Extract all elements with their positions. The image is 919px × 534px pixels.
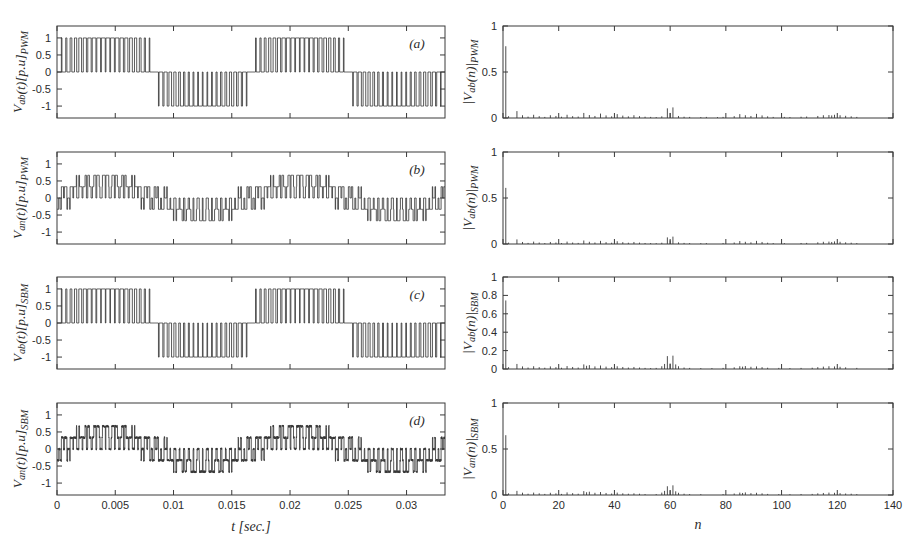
panel-d-xticklabel: 0.02: [279, 499, 300, 511]
spectrum-d-spectrum-frame: [503, 403, 893, 495]
spectrum-d-spectrum-xticklabel: 140: [884, 499, 902, 511]
panel-d-xticklabel: 0.03: [396, 499, 417, 511]
spectrum-d-spectrum-xticklabel: 80: [720, 499, 732, 511]
ylabel-b: Van(t)[p.u]PWM: [10, 156, 30, 240]
spectrum-d-spectrum-yticklabel: 0.5: [482, 443, 497, 455]
spectrum-c-spectrum-axes: 00.20.40.60.81: [482, 271, 893, 375]
spectrum-a-spectrum-yticklabel: 0: [491, 112, 497, 124]
spectrum-c-spectrum-frame: [503, 277, 893, 369]
spectrum-stems-d-spectrum: [506, 435, 857, 495]
spectrum-a-spectrum-axes: 00.51: [482, 20, 893, 124]
waveform-trace-c: [57, 289, 445, 357]
spectrum-b-spectrum-yticklabel: 0: [491, 238, 497, 250]
panel-b-yticklabel: -1: [41, 226, 51, 238]
waveform-trace-a: [57, 38, 445, 106]
panel-d-yticklabel: 0.5: [36, 426, 51, 438]
spectrum-d-spectrum-xticklabel: 60: [664, 499, 676, 511]
spectrum-b-spectrum-axes: 00.51: [482, 146, 893, 250]
panel-d-xticklabel: 0.01: [163, 499, 184, 511]
panel-c-yticklabel: 0: [45, 317, 51, 329]
xlabel-harmonic-order: n: [695, 517, 702, 532]
panel-d-xticklabel: 0.025: [335, 499, 363, 511]
ylabel-d: Van(t)[p.u]SBM: [10, 408, 30, 488]
spectrum-c-spectrum-yticklabel: 0.4: [482, 326, 497, 338]
spectrum-d-spectrum-xticklabel: 120: [828, 499, 846, 511]
waveform-trace-d: [57, 425, 445, 473]
panel-annotation-a: (a): [409, 36, 425, 51]
panel-a-yticklabel: -0.5: [32, 83, 51, 95]
spectrum-a-spectrum-yticklabel: 1: [491, 20, 497, 32]
panel-c-yticklabel: 1: [45, 283, 51, 295]
spectrum-b-spectrum-frame: [503, 152, 893, 244]
panel-annotation-b: (b): [409, 162, 425, 177]
xlabel-time: t [sec.]: [231, 519, 271, 534]
ylabel-b-spectrum: |Vab(n)|PWM: [460, 164, 480, 231]
panel-a-yticklabel: 1: [45, 32, 51, 44]
panel-b-yticklabel: -0.5: [32, 209, 51, 221]
spectrum-c-spectrum-yticklabel: 0.6: [482, 308, 497, 320]
spectrum-stems-a-spectrum: [506, 46, 857, 118]
panel-c-yticklabel: -0.5: [32, 334, 51, 346]
figure-canvas: -1-0.500.51Vab(t)[p.u]PWM(a)-1-0.500.51V…: [0, 0, 919, 534]
panel-d-yticklabel: -1: [41, 477, 51, 489]
panel-d-yticklabel: 0: [45, 443, 51, 455]
panel-d-yticklabel: -0.5: [32, 460, 51, 472]
panel-a-yticklabel: -1: [41, 100, 51, 112]
spectrum-c-spectrum-yticklabel: 0: [491, 363, 497, 375]
spectrum-d-spectrum-xticklabel: 0: [500, 499, 506, 511]
ylabel-c-spectrum: |Vab(n)|SBM: [460, 291, 480, 354]
spectrum-d-spectrum-yticklabel: 0: [491, 489, 497, 501]
spectrum-c-spectrum-yticklabel: 0.2: [482, 345, 497, 357]
panel-a-yticklabel: 0.5: [36, 49, 51, 61]
spectrum-c-spectrum-yticklabel: 1: [491, 271, 497, 283]
panel-annotation-c: (c): [410, 287, 425, 302]
spectrum-stems-b-spectrum: [506, 188, 857, 244]
spectrum-b-spectrum-yticklabel: 1: [491, 146, 497, 158]
panel-annotation-d: (d): [409, 413, 425, 428]
panel-c-yticklabel: -1: [41, 351, 51, 363]
multi-panel-figure: -1-0.500.51Vab(t)[p.u]PWM(a)-1-0.500.51V…: [0, 0, 919, 534]
spectrum-d-spectrum-xticklabel: 20: [553, 499, 565, 511]
spectrum-c-spectrum-yticklabel: 0.8: [482, 289, 497, 301]
spectrum-b-spectrum-yticklabel: 0.5: [482, 192, 497, 204]
panel-b-yticklabel: 0: [45, 192, 51, 204]
panel-b-yticklabel: 1: [45, 158, 51, 170]
ylabel-a-spectrum: |Vab(n)|PWM: [460, 38, 480, 105]
ylabel-a: Vab(t)[p.u]PWM: [10, 30, 30, 114]
panel-d-xticklabel: 0: [54, 499, 60, 511]
spectrum-stems-c-spectrum: [506, 300, 857, 369]
panel-d-xticklabel: 0.005: [101, 499, 129, 511]
ylabel-d-spectrum: |Van(n)|SBM: [460, 417, 480, 480]
spectrum-a-spectrum-frame: [503, 26, 893, 118]
panel-d-yticklabel: 1: [45, 409, 51, 421]
ylabel-c: Vab(t)[p.u]SBM: [10, 282, 30, 362]
spectrum-d-spectrum-yticklabel: 1: [491, 397, 497, 409]
panel-c-yticklabel: 0.5: [36, 300, 51, 312]
spectrum-d-spectrum-xticklabel: 40: [608, 499, 620, 511]
panel-b-yticklabel: 0.5: [36, 175, 51, 187]
waveform-trace-b: [57, 175, 445, 220]
panel-a-yticklabel: 0: [45, 66, 51, 78]
panel-d-xticklabel: 0.015: [218, 499, 246, 511]
spectrum-a-spectrum-yticklabel: 0.5: [482, 66, 497, 78]
spectrum-d-spectrum-xticklabel: 100: [772, 499, 790, 511]
